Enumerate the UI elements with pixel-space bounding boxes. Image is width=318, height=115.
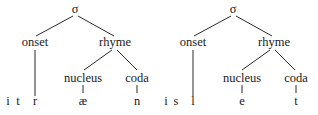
nucleus-node: nucleus [223, 71, 261, 85]
syllable-tree-1: σ onset rhyme nucleus coda i t r æ n [0, 0, 160, 115]
rhyme-node: rhyme [258, 35, 290, 49]
segment-nucleus: e [239, 94, 245, 108]
segment-coda: n [134, 94, 140, 108]
segment-extra-2: t [16, 94, 19, 108]
onset-node: onset [22, 35, 48, 49]
segment-onset: l [191, 94, 194, 108]
segment-coda: t [294, 94, 297, 108]
syllable-node: σ [72, 2, 79, 16]
onset-node: onset [180, 35, 206, 49]
coda-node: coda [125, 71, 149, 85]
segment-nucleus: æ [79, 94, 87, 108]
segment-extra-1: i [6, 94, 9, 108]
coda-node: coda [284, 71, 308, 85]
syllable-node: σ [230, 2, 237, 16]
segment-onset: r [33, 94, 37, 108]
syllable-tree-2: σ onset rhyme nucleus coda i s l e t [158, 0, 318, 115]
segment-extra-2: s [174, 94, 179, 108]
rhyme-node: rhyme [99, 35, 131, 49]
nucleus-node: nucleus [64, 71, 102, 85]
segment-extra-1: i [164, 94, 167, 108]
